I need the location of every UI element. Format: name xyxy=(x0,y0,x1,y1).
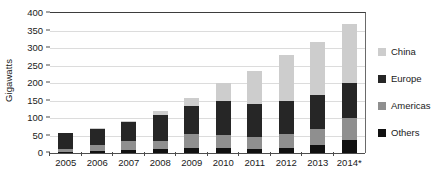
bar-segment-china xyxy=(279,55,294,101)
bar-stack xyxy=(247,71,262,153)
bar-group xyxy=(145,13,177,153)
bar-segment-europe xyxy=(216,101,231,135)
bar-group xyxy=(50,13,82,153)
bar-group xyxy=(302,13,334,153)
y-tick-label: 150 xyxy=(27,94,43,105)
y-axis-tick-labels: 050100150200250300350400 xyxy=(16,6,46,154)
bar-segment-europe xyxy=(310,95,325,129)
x-tick-mark xyxy=(145,152,177,156)
bar-stack xyxy=(184,98,199,153)
legend-item-others[interactable]: Others xyxy=(378,119,446,146)
legend-label: Americas xyxy=(391,100,431,111)
legend-swatch-china xyxy=(378,48,386,56)
x-tick-mark xyxy=(334,152,366,156)
bar-stack xyxy=(342,24,357,153)
bar-series-container xyxy=(50,13,365,153)
x-tick-label: 2012 xyxy=(271,157,303,168)
bar-group xyxy=(271,13,303,153)
bar-segment-europe xyxy=(342,83,357,117)
x-tick-label: 2009 xyxy=(176,157,208,168)
bar-group xyxy=(82,13,114,153)
bar-segment-china xyxy=(342,24,357,84)
bar-segment-americas xyxy=(279,134,294,148)
x-tick-label: 2011 xyxy=(239,157,271,168)
x-tick-mark xyxy=(50,152,82,156)
legend-swatch-others xyxy=(378,129,386,137)
bar-segment-americas xyxy=(247,137,262,149)
bar-segment-americas xyxy=(310,129,325,145)
x-tick-label: 2010 xyxy=(208,157,240,168)
bar-stack xyxy=(153,111,168,153)
x-tick-mark xyxy=(239,152,271,156)
y-tick-label: 350 xyxy=(27,24,43,35)
bar-segment-europe xyxy=(121,122,136,142)
legend-swatch-europe xyxy=(378,75,386,83)
legend-swatch-americas xyxy=(378,102,386,110)
plot-area xyxy=(50,12,366,153)
legend-label: China xyxy=(391,46,416,57)
bar-segment-europe xyxy=(247,104,262,137)
bar-segment-americas xyxy=(184,134,199,148)
stacked-bar-chart: Gigawatts 050100150200250300350400 20052… xyxy=(0,0,446,190)
bar-stack xyxy=(121,121,136,153)
legend-item-europe[interactable]: Europe xyxy=(378,65,446,92)
x-tick-label: 2006 xyxy=(82,157,114,168)
bar-segment-americas xyxy=(121,141,136,149)
y-axis-title-label: Gigawatts xyxy=(4,58,15,101)
bar-stack xyxy=(58,133,73,153)
bar-segment-china xyxy=(310,42,325,95)
bar-stack xyxy=(216,83,231,153)
bar-segment-europe xyxy=(184,106,199,134)
legend-label: Others xyxy=(391,127,420,138)
x-tick-label: 2007 xyxy=(113,157,145,168)
chart-legend: ChinaEuropeAmericasOthers xyxy=(378,38,446,146)
bar-segment-europe xyxy=(90,129,105,145)
bar-group xyxy=(208,13,240,153)
x-axis-tick-labels: 2005200620072008200920102011201220132014… xyxy=(50,157,365,168)
y-tick-label: 200 xyxy=(27,77,43,88)
bar-group xyxy=(113,13,145,153)
x-tick-label: 2005 xyxy=(50,157,82,168)
bar-group xyxy=(176,13,208,153)
bar-segment-europe xyxy=(279,101,294,134)
legend-item-americas[interactable]: Americas xyxy=(378,92,446,119)
bar-segment-americas xyxy=(153,141,168,149)
bar-stack xyxy=(279,55,294,153)
x-tick-mark xyxy=(271,152,303,156)
y-tick-label: 400 xyxy=(27,7,43,18)
y-tick-label: 300 xyxy=(27,42,43,53)
bar-segment-americas xyxy=(216,135,231,148)
bar-stack xyxy=(310,42,325,153)
y-tick-label: 100 xyxy=(27,112,43,123)
bar-stack xyxy=(90,128,105,153)
x-tick-mark xyxy=(82,152,114,156)
y-tick-label: 250 xyxy=(27,59,43,70)
x-tick-label: 2013 xyxy=(302,157,334,168)
x-axis: 2005200620072008200920102011201220132014… xyxy=(50,152,365,182)
legend-item-china[interactable]: China xyxy=(378,38,446,65)
x-tick-mark xyxy=(113,152,145,156)
bar-segment-europe xyxy=(58,133,73,149)
x-tick-label: 2008 xyxy=(145,157,177,168)
y-tick-label: 0 xyxy=(38,147,43,158)
x-axis-tickmarks xyxy=(50,152,365,156)
x-tick-mark xyxy=(208,152,240,156)
x-tick-mark xyxy=(302,152,334,156)
legend-label: Europe xyxy=(391,73,422,84)
bar-group xyxy=(334,13,366,153)
bar-segment-china xyxy=(184,98,199,107)
bar-segment-others xyxy=(342,140,357,153)
bar-segment-china xyxy=(247,71,262,104)
bar-segment-china xyxy=(216,83,231,101)
bar-group xyxy=(239,13,271,153)
y-tick-label: 50 xyxy=(32,129,43,140)
bar-segment-europe xyxy=(153,115,168,141)
bar-segment-americas xyxy=(342,118,357,140)
x-tick-mark xyxy=(176,152,208,156)
x-tick-label: 2014* xyxy=(334,157,366,168)
